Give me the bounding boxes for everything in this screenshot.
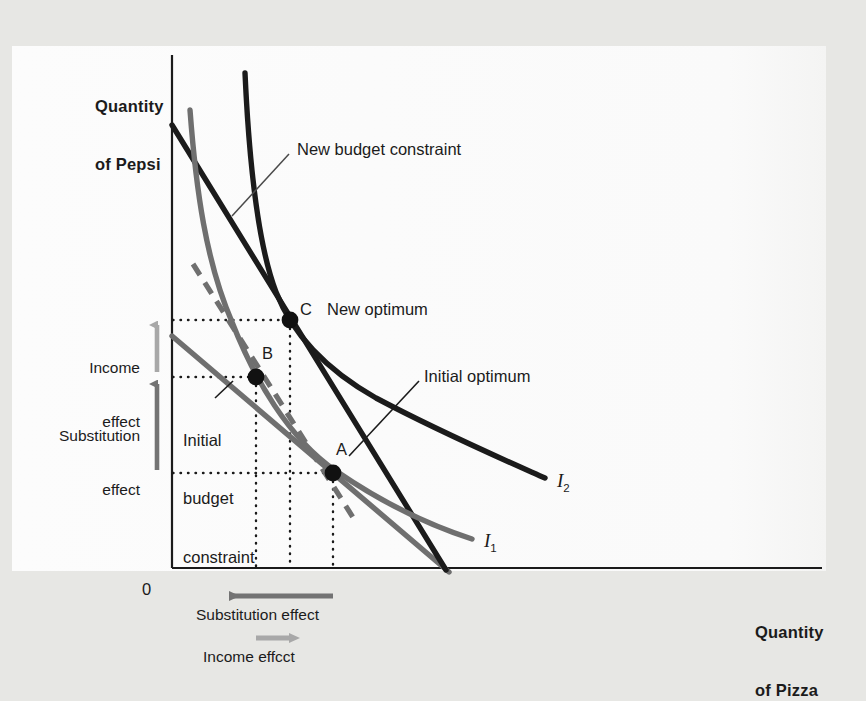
y-axis-label: Quantity of Pepsi [95,58,164,214]
leader-initial-optimum [349,381,419,456]
initial-optimum-label: Initial optimum [424,367,530,386]
substitution-effect-side-label: Substitution effect [15,390,140,536]
y-axis-label-line1: Quantity [95,97,164,116]
point-marker-b [248,369,265,386]
i1-subscript: 1 [490,542,496,554]
y-axis-label-line2: of Pepsi [95,155,164,174]
initial-budget-constraint-line2: budget [183,489,255,508]
initial-budget-constraint-line1: Initial [183,431,255,450]
substitution-effect-side-line1: Substitution [15,427,140,445]
initial-budget-constraint-line3: constraint [183,548,255,567]
substitution-effect-bottom-label: Substitution effect [196,606,319,624]
origin-label: 0 [142,580,151,599]
figure-root: Quantity of Pepsi Quantity of Pizza 0 Ne… [0,0,866,701]
point-marker-c [282,312,299,329]
x-axis-label-line2: of Pizza [755,681,824,700]
substitution-effect-side-line2: effect [15,481,140,499]
indifference-curve-i2-label: I2 [557,470,570,495]
x-axis-label-line1: Quantity [755,623,824,642]
point-label-a: A [336,440,347,459]
indifference-curve-i1-label: I1 [484,530,497,555]
new-optimum-label: New optimum [327,300,428,319]
point-marker-a [325,465,342,482]
income-effect-bottom-label: Income effcct [203,648,295,666]
income-effect-side-line1: Income [30,359,140,377]
i2-subscript: 2 [563,482,569,494]
initial-budget-constraint-label: Initial budget constraint [183,392,255,606]
x-axis-label: Quantity of Pizza [755,584,824,701]
new-budget-constraint-label: New budget constraint [297,140,461,159]
point-label-c: C [300,300,312,319]
leader-new-budget-constraint [232,154,289,216]
point-label-b: B [262,344,273,363]
